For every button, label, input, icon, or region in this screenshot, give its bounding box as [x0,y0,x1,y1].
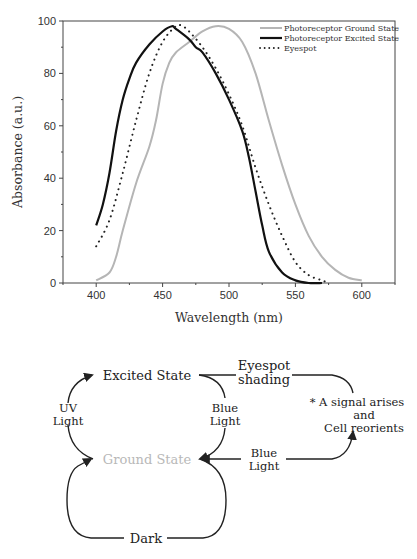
eyespot-shading-label-2: shading [238,372,290,387]
uv-light-label-1: UV [59,401,78,415]
y-tick-label: 60 [44,120,56,132]
blue-light-right-label-2: Light [249,459,280,473]
legend-label: Photoreceptor Excited State [284,34,399,43]
x-axis-title: Wavelength (nm) [175,310,283,325]
uv-light-label-2: Light [53,414,84,428]
state-cycle-diagram: Excited State Ground State UV Light Blue… [0,330,417,559]
legend-label: Eyespot [284,44,317,53]
ground-state-label: Ground State [103,452,192,467]
y-tick-label: 40 [44,172,56,184]
y-tick-label: 100 [38,15,56,27]
eyespot-shading-label-1: Eyespot [238,358,291,373]
dark-label: Dark [130,531,162,546]
dark-loop-right [167,459,226,538]
series-line-2 [96,25,328,283]
y-axis-title: Absorbance (a.u.) [10,96,25,209]
chart-legend: Photoreceptor Ground StatePhotoreceptor … [260,24,399,53]
blue-light-middle-label-1: Blue [212,401,239,415]
blue-light-right-label-1: Blue [251,446,278,460]
y-tick-label: 80 [44,67,56,79]
blue-light-middle-label-2: Light [210,414,241,428]
signal-label-1: * A signal arises [310,395,405,409]
chart-series [96,25,362,283]
x-tick-label: 450 [153,289,171,301]
dark-loop-left [67,459,124,538]
signal-label-2: and [353,408,375,422]
signal-return-arrow [286,432,353,459]
y-tick-label: 20 [44,225,56,237]
x-tick-label: 500 [220,289,238,301]
signal-label-3: Cell reorients [324,421,404,435]
y-tick-label: 0 [50,277,56,289]
chart-axes: 020406080100400450500550600 [38,15,395,301]
absorbance-chart: 020406080100400450500550600 Photorecepto… [0,0,417,330]
eyespot-connector-right [292,375,353,393]
x-tick-label: 550 [286,289,304,301]
x-tick-label: 400 [87,289,105,301]
x-tick-label: 600 [353,289,371,301]
series-line-1 [96,26,322,283]
legend-label: Photoreceptor Ground State [284,24,399,33]
excited-state-label: Excited State [103,368,192,383]
